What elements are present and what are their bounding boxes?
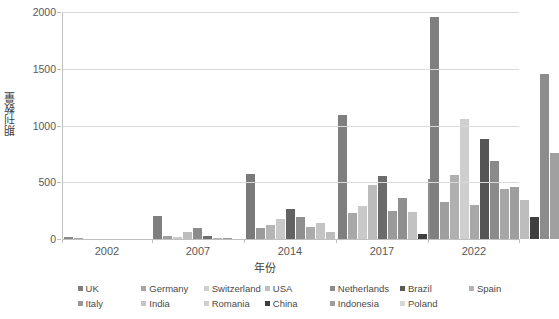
bar xyxy=(490,161,499,239)
legend-label: Indonesia xyxy=(338,299,379,309)
legend-label: Germany xyxy=(149,284,188,294)
legend-label: Switzerland xyxy=(212,284,261,294)
bar xyxy=(408,212,417,239)
legend-item-romania[interactable]: Romania xyxy=(204,296,250,311)
bar xyxy=(276,219,285,239)
legend-swatch-icon xyxy=(265,301,270,306)
x-tick-mark xyxy=(62,239,63,243)
y-tick-mark xyxy=(57,69,61,70)
legend-swatch-icon xyxy=(141,301,146,306)
bar xyxy=(316,223,325,239)
legend-label: Brazil xyxy=(408,284,432,294)
y-tick-mark xyxy=(57,239,61,240)
legend-swatch-icon xyxy=(330,286,335,291)
bar xyxy=(520,200,529,239)
x-tick-mark xyxy=(428,239,429,243)
bar xyxy=(388,211,397,239)
bar xyxy=(430,17,439,239)
legend-item-brazil[interactable]: Brazil xyxy=(400,281,432,296)
legend-item-poland[interactable]: Poland xyxy=(400,296,438,311)
gridline xyxy=(62,69,519,70)
x-tick-mark xyxy=(152,239,153,243)
legend-row-2: ItalyIndiaRomaniaChinaIndonesiaPoland xyxy=(62,296,517,311)
gridline xyxy=(62,182,519,183)
legend-item-spain[interactable]: Spain xyxy=(469,281,501,296)
legend-swatch-icon xyxy=(400,301,405,306)
bar xyxy=(266,225,275,239)
legend-item-italy[interactable]: Italy xyxy=(78,296,103,311)
bar xyxy=(550,153,559,239)
legend-swatch-icon xyxy=(469,286,474,291)
legend-item-germany[interactable]: Germany xyxy=(141,281,188,296)
bar xyxy=(296,217,305,239)
legend-label: Netherlands xyxy=(338,284,389,294)
bar xyxy=(450,175,459,239)
x-tick-label: 2007 xyxy=(168,245,228,257)
bar xyxy=(368,185,377,239)
legend-label: India xyxy=(149,299,170,309)
bar xyxy=(460,119,469,239)
legend-label: UK xyxy=(86,284,99,294)
legend-item-netherlands[interactable]: Netherlands xyxy=(330,281,389,296)
gridline xyxy=(62,126,519,127)
legend-item-china[interactable]: China xyxy=(265,296,298,311)
legend-swatch-icon xyxy=(204,301,209,306)
bar xyxy=(398,198,407,239)
chart-title xyxy=(0,0,529,3)
legend-swatch-icon xyxy=(78,301,83,306)
y-tick-label: 1500 xyxy=(33,64,56,74)
gridline xyxy=(62,12,519,13)
x-axis-title: 年份 xyxy=(0,259,529,275)
legend-label: Poland xyxy=(408,299,438,309)
legend-swatch-icon xyxy=(204,286,209,291)
bar xyxy=(153,216,162,239)
y-tick-label: 500 xyxy=(38,177,56,187)
x-axis-line xyxy=(62,239,519,240)
x-tick-label: 2017 xyxy=(352,245,412,257)
chart-legend: UKGermanySwitzerlandUSANetherlandsBrazil… xyxy=(62,281,517,315)
y-tick-label: 2000 xyxy=(33,7,56,17)
legend-swatch-icon xyxy=(400,286,405,291)
legend-label: China xyxy=(273,299,298,309)
bar xyxy=(286,209,295,239)
legend-swatch-icon xyxy=(78,286,83,291)
bar xyxy=(530,217,539,239)
y-tick-label: 0 xyxy=(50,234,56,244)
bar xyxy=(183,232,192,239)
legend-label: USA xyxy=(273,284,293,294)
bar xyxy=(348,213,357,239)
legend-item-indonesia[interactable]: Indonesia xyxy=(330,296,379,311)
legend-label: Romania xyxy=(212,299,250,309)
legend-swatch-icon xyxy=(141,286,146,291)
bar xyxy=(470,205,479,239)
y-axis-line xyxy=(62,12,63,240)
bar xyxy=(193,228,202,239)
legend-item-usa[interactable]: USA xyxy=(265,281,293,296)
bar xyxy=(338,115,347,239)
y-tick-mark xyxy=(57,182,61,183)
x-tick-mark xyxy=(519,239,520,243)
x-tick-mark xyxy=(244,239,245,243)
bar xyxy=(306,227,315,239)
x-tick-label: 2014 xyxy=(260,245,320,257)
bar xyxy=(540,74,549,239)
legend-label: Spain xyxy=(477,284,501,294)
bar xyxy=(440,202,449,239)
x-tick-label: 2002 xyxy=(77,245,137,257)
y-tick-mark xyxy=(57,126,61,127)
x-tick-label: 2022 xyxy=(444,245,504,257)
plot-area xyxy=(62,12,519,239)
bar xyxy=(500,189,509,239)
legend-item-uk[interactable]: UK xyxy=(78,281,99,296)
legend-label: Italy xyxy=(86,299,103,309)
legend-item-switzerland[interactable]: Switzerland xyxy=(204,281,261,296)
legend-swatch-icon xyxy=(330,301,335,306)
bar xyxy=(510,187,519,239)
bar xyxy=(358,206,367,239)
legend-item-india[interactable]: India xyxy=(141,296,170,311)
x-tick-mark xyxy=(336,239,337,243)
y-tick-label: 1000 xyxy=(33,121,56,131)
y-tick-mark xyxy=(57,12,61,13)
bar xyxy=(378,176,387,239)
